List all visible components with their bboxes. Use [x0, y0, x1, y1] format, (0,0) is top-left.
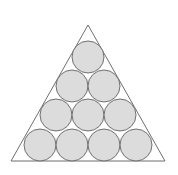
circle-packing-diagram: [0, 0, 178, 175]
packed-circle-row4-4: [120, 129, 152, 161]
packed-circle-row4-3: [88, 129, 120, 161]
packed-circle-row3-1: [40, 99, 72, 131]
packed-circle-row1-1: [72, 41, 104, 73]
packed-circle-row2-2: [88, 70, 120, 102]
circle-group: [24, 41, 152, 161]
packed-circle-row4-1: [24, 129, 56, 161]
packed-circle-row4-2: [56, 129, 88, 161]
packed-circle-row2-1: [56, 70, 88, 102]
packed-circle-row3-2: [72, 99, 104, 131]
packed-circle-row3-3: [104, 99, 136, 131]
